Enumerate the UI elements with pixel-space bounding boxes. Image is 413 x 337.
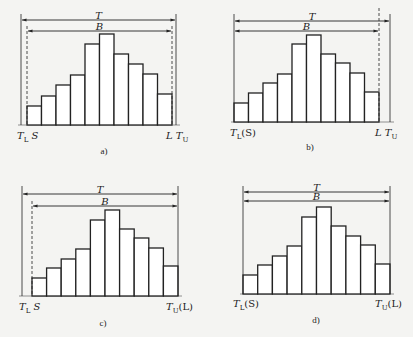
- histogram-bar: [47, 268, 62, 296]
- panel-caption: c): [100, 318, 107, 328]
- spread-label: B: [302, 21, 310, 32]
- histogram-bar: [336, 63, 351, 122]
- lower-limit-label: TL S: [19, 301, 41, 315]
- histogram-bar: [302, 217, 317, 294]
- histogram-bar: [149, 248, 164, 296]
- histogram-bar: [85, 44, 100, 125]
- lower-limit-label: TL(S): [233, 298, 259, 312]
- histogram-bar: [307, 35, 322, 122]
- histogram-bar: [71, 75, 86, 125]
- histogram-bar: [272, 256, 287, 294]
- histogram-bar: [234, 103, 249, 122]
- upper-limit-label: L TU: [165, 130, 189, 144]
- upper-limit-label: TU(L): [166, 301, 193, 315]
- histogram-bar: [90, 220, 105, 296]
- histogram-bar: [163, 266, 178, 296]
- upper-limit-label: L TU: [374, 127, 398, 141]
- histogram-bar: [258, 265, 273, 294]
- histogram-bar: [76, 249, 91, 296]
- histogram-bar: [134, 238, 149, 296]
- histogram-bar: [100, 34, 115, 125]
- histogram-bar: [42, 96, 57, 125]
- histogram-bar: [249, 93, 264, 122]
- histogram-bar: [331, 226, 346, 294]
- histogram-bar: [361, 245, 376, 294]
- spread-label: B: [100, 196, 108, 207]
- histogram-bar: [243, 275, 258, 294]
- histogram-bar: [158, 94, 173, 125]
- histogram-bar: [120, 229, 135, 296]
- histogram-bar: [287, 246, 302, 294]
- panel-caption: d): [312, 315, 320, 325]
- histogram-bar: [317, 207, 332, 294]
- histogram-bar: [105, 210, 120, 296]
- histogram-bar: [61, 259, 76, 296]
- lower-limit-label: TL S: [17, 130, 39, 144]
- histogram-bar: [278, 74, 293, 122]
- panel-caption: b): [306, 142, 314, 152]
- histogram-bar: [56, 85, 71, 125]
- upper-limit-label: TU(L): [375, 298, 402, 312]
- histogram-bar: [350, 73, 365, 122]
- histogram-bar: [27, 106, 42, 125]
- spread-label: B: [312, 191, 320, 202]
- panel-caption: a): [101, 146, 108, 156]
- histogram-bar: [263, 83, 278, 122]
- histogram-bar: [375, 264, 390, 294]
- tolerance-label: T: [95, 10, 103, 21]
- histogram-bar: [32, 278, 47, 296]
- histogram-bar: [346, 236, 361, 294]
- panel-a: TBTL SL TUa): [17, 10, 189, 157]
- histogram-bar: [321, 54, 336, 122]
- histogram-bar: [365, 92, 380, 122]
- histogram-bar: [114, 54, 129, 125]
- panel-b: TBTL(S)L TUb): [230, 8, 398, 152]
- panel-d: TBTL(S)TU(L)d): [233, 182, 402, 326]
- histogram-bar: [129, 64, 144, 125]
- panel-c: TBTL STU(L)c): [19, 184, 193, 329]
- spread-label: B: [95, 21, 103, 32]
- lower-limit-label: TL(S): [230, 127, 256, 141]
- tolerance-label: T: [97, 184, 105, 195]
- histogram-bar: [143, 74, 158, 125]
- histogram-bar: [292, 44, 307, 122]
- histogram-figure: TBTL SL TUa)TBTL(S)L TUb)TBTL STU(L)c)TB…: [0, 0, 413, 337]
